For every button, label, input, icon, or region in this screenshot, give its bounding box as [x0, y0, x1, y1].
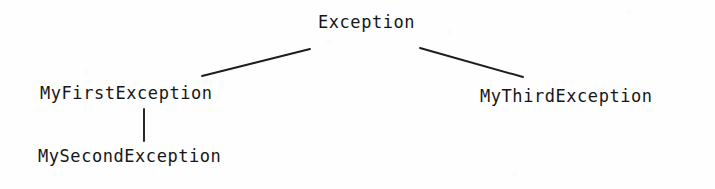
diagram-canvas: Exception MyFirstException MyThirdExcept…	[0, 0, 715, 189]
node-my-third-exception: MyThirdException	[480, 88, 653, 105]
node-exception: Exception	[318, 14, 415, 31]
node-my-first-exception: MyFirstException	[40, 85, 213, 102]
node-my-second-exception: MySecondException	[38, 148, 221, 165]
edge-exception-to-mythirdexception	[420, 48, 523, 77]
edge-exception-to-myfirstexception	[202, 49, 310, 76]
